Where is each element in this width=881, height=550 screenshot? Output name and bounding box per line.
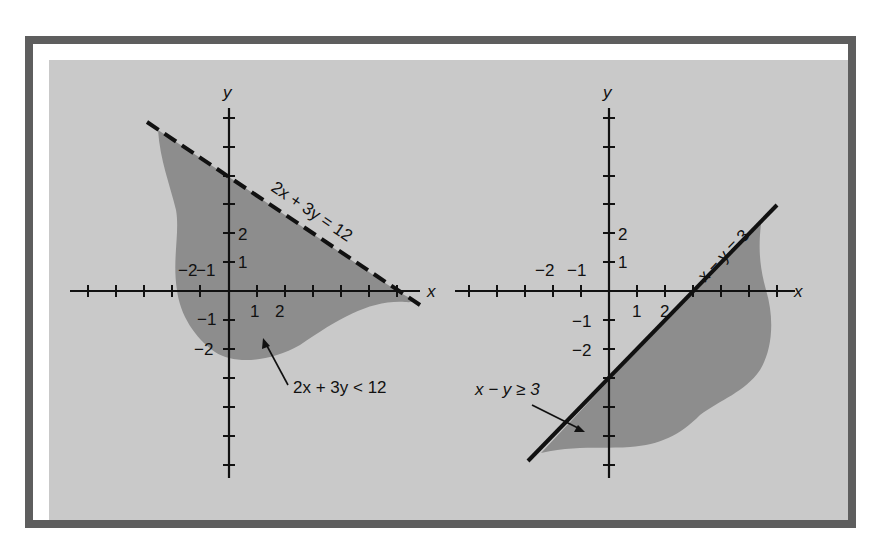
right-ytick-neg2: −2 <box>572 341 591 360</box>
inequality-graphs: y x −2 −1 1 2 2 1 −1 −2 2x + 3y = 12 2x … <box>0 0 881 550</box>
left-ytick-1: 1 <box>238 253 247 272</box>
right-ytick-2: 2 <box>618 225 627 244</box>
left-y-axis-label: y <box>222 83 233 102</box>
left-xtick-neg1: −1 <box>196 261 215 280</box>
right-ytick-1: 1 <box>618 253 627 272</box>
right-y-axis-label: y <box>602 83 613 102</box>
right-graph: y x −2 −1 1 2 2 1 −1 −2 x − y = 3 x − y … <box>455 83 803 478</box>
right-xtick-neg2: −2 <box>535 261 554 280</box>
right-shaded-region <box>541 224 771 453</box>
left-xtick-2: 2 <box>275 302 284 321</box>
left-xtick-neg2: −2 <box>178 261 197 280</box>
left-ytick-neg1: −1 <box>197 310 216 329</box>
left-graph: y x −2 −1 1 2 2 1 −1 −2 2x + 3y = 12 2x … <box>70 83 436 478</box>
right-x-axis-label: x <box>793 282 803 301</box>
right-xtick-neg1: −1 <box>567 261 586 280</box>
left-ytick-2: 2 <box>238 225 247 244</box>
left-ytick-neg2: −2 <box>194 340 213 359</box>
right-ytick-neg1: −1 <box>572 312 591 331</box>
right-xtick-2: 2 <box>660 302 669 321</box>
right-xtick-1: 1 <box>632 302 641 321</box>
left-region-label: 2x + 3y < 12 <box>293 378 387 397</box>
left-x-axis-label: x <box>426 282 436 301</box>
right-region-label: x − y ≥ 3 <box>474 380 540 399</box>
left-xtick-1: 1 <box>250 302 259 321</box>
